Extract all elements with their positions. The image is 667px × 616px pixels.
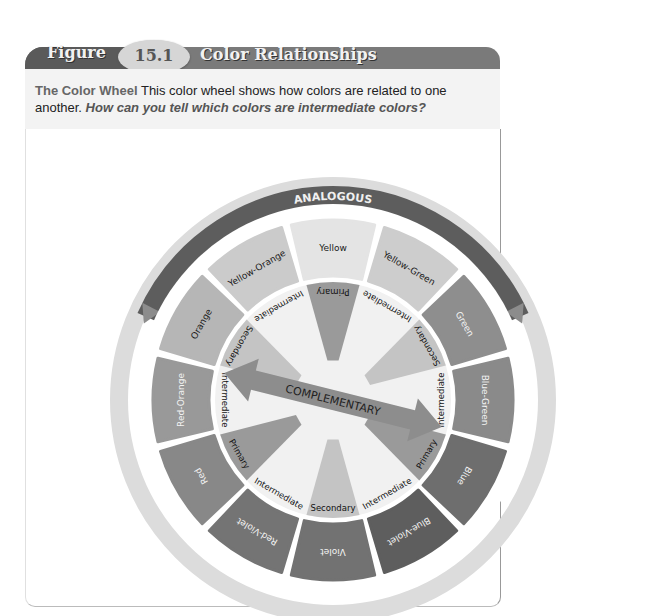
segment-label: Blue-Green [480, 375, 490, 426]
color-wheel: ANALOGOUS YellowYellow-GreenGreenBlue-Gr… [0, 0, 667, 616]
inner-label-primary: Primary [317, 287, 350, 297]
inner-label-secondary: Secondary [310, 503, 355, 513]
inner-label-intermediate: Intermediate [436, 373, 446, 428]
segment-label: Red-Orange [176, 373, 186, 427]
segment-label: Violet [320, 547, 346, 557]
inner-label-intermediate: Intermediate [220, 373, 230, 428]
segment-label: Yellow [318, 243, 347, 253]
